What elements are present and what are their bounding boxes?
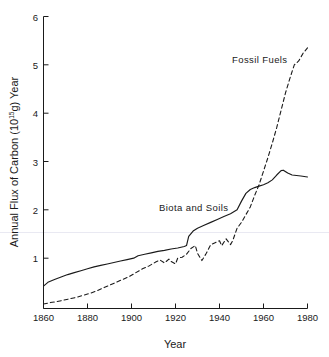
x-tick-label: 1920: [165, 312, 186, 323]
line-chart: 6 5 4 3 2 1 1860 1880 1900 1920 1940 196…: [0, 0, 329, 357]
y-tick-label: 5: [33, 60, 38, 71]
y-tick-labels: 6 5 4 3 2 1: [33, 12, 38, 265]
annotation-biota-and-soils: Biota and Soils: [159, 202, 228, 213]
y-tick-label: 2: [33, 205, 38, 216]
x-tick-label: 1900: [121, 312, 142, 323]
y-axis-title-tail: g) Year: [8, 76, 20, 111]
chart-figure: 6 5 4 3 2 1 1860 1880 1900 1920 1940 196…: [0, 0, 329, 357]
y-tick-label: 1: [33, 253, 38, 264]
series-fossil-fuels: [44, 48, 308, 304]
y-ticks: [44, 17, 49, 259]
x-ticks: [44, 304, 308, 309]
x-tick-label: 1940: [209, 312, 230, 323]
x-tick-label: 1860: [33, 312, 54, 323]
x-tick-label: 1880: [77, 312, 98, 323]
y-axis-title: Annual Flux of Carbon (1015g) Year: [8, 76, 20, 247]
y-tick-label: 3: [33, 157, 38, 168]
x-axis-title: Year: [164, 338, 187, 350]
x-tick-label: 1960: [253, 312, 274, 323]
x-tick-labels: 1860 1880 1900 1920 1940 1960 1980: [33, 312, 318, 323]
y-axis-title-main: Annual Flux of Carbon (10: [8, 119, 20, 247]
x-tick-label: 1980: [297, 312, 318, 323]
annotation-fossil-fuels: Fossil Fuels: [232, 54, 287, 65]
series-biota-and-soils: [44, 170, 308, 286]
y-tick-label: 6: [33, 12, 38, 23]
y-tick-label: 4: [33, 108, 38, 119]
